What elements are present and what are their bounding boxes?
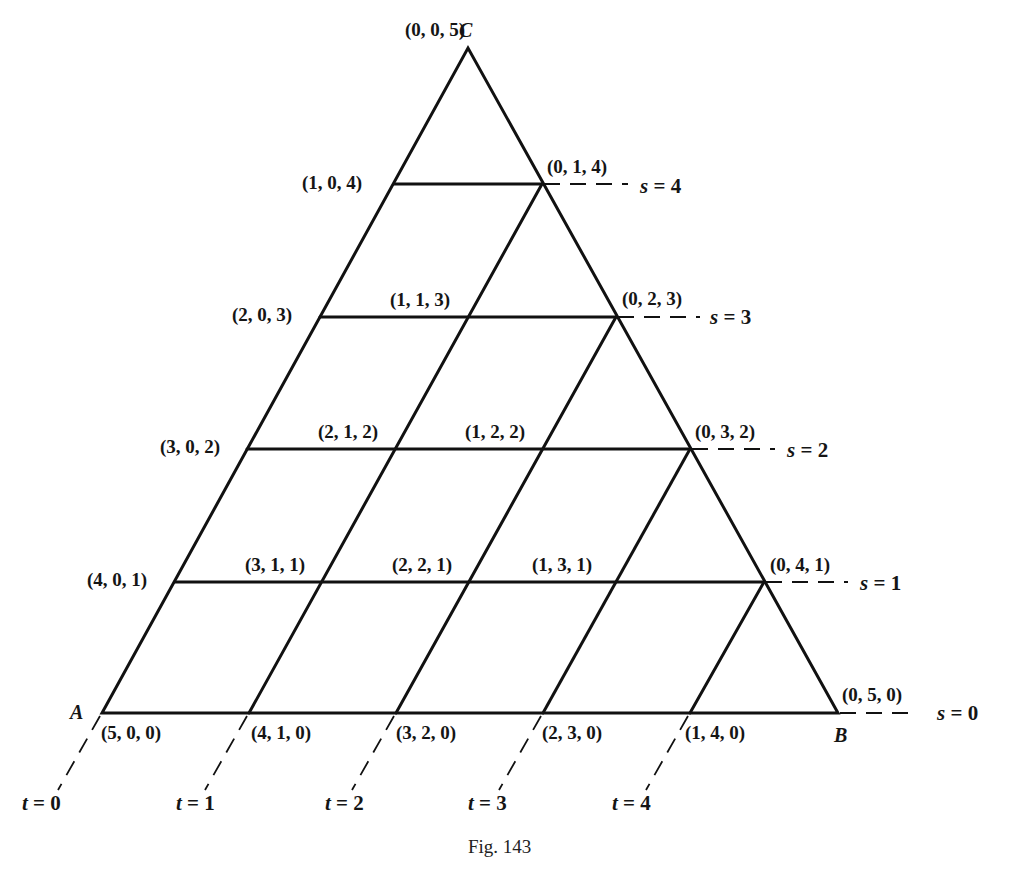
triangle-outline: [102, 48, 838, 713]
s-line-label: s = 1: [860, 573, 901, 594]
s-line-label-value: = 3: [718, 305, 751, 329]
point-label: (0, 3, 2): [695, 422, 755, 441]
t-dash-4: [646, 716, 688, 790]
s-line-label-variable: s: [860, 571, 868, 595]
point-label: (1, 1, 3): [390, 290, 450, 309]
s-line-label-value: = 2: [795, 438, 828, 462]
t-line-2: [396, 317, 616, 713]
t-line-label: t = 4: [612, 793, 651, 814]
s-line-label-value: = 1: [868, 571, 901, 595]
s-line-label: s = 4: [640, 176, 681, 197]
s-line-label-variable: s: [787, 438, 795, 462]
s-line-label-variable: s: [640, 174, 648, 198]
point-label: (5, 0, 0): [101, 723, 161, 742]
point-label: (1, 3, 1): [532, 555, 592, 574]
point-label: (1, 2, 2): [465, 422, 525, 441]
point-label: (1, 0, 4): [302, 173, 362, 192]
t-line-label-value: = 3: [474, 791, 507, 815]
s-line-label: s = 2: [787, 440, 828, 461]
point-label: (2, 0, 3): [232, 305, 292, 324]
point-label: (3, 1, 1): [245, 555, 305, 574]
t-dash-2: [352, 716, 394, 790]
s-line-label: s = 3: [710, 307, 751, 328]
point-label: (0, 0, 5): [405, 20, 465, 39]
s-line-label: s = 0: [937, 703, 978, 724]
t-dash-0: [58, 716, 100, 790]
point-label: (2, 3, 0): [542, 723, 602, 742]
t-line-label-value: = 2: [331, 791, 364, 815]
point-label: (2, 2, 1): [392, 555, 452, 574]
point-label: (3, 0, 2): [160, 437, 220, 456]
t-dash-3: [499, 716, 541, 790]
point-label: (1, 4, 0): [685, 723, 745, 742]
s-line-label-variable: s: [937, 701, 945, 725]
point-label: (0, 1, 4): [547, 157, 607, 176]
figure-caption: Fig. 143: [468, 837, 531, 856]
point-label: (0, 2, 3): [622, 289, 682, 308]
t-line-label-value: = 1: [182, 791, 215, 815]
vertex-label-a: A: [70, 702, 83, 722]
t-line-label: t = 1: [176, 793, 215, 814]
point-label: (0, 5, 0): [842, 685, 902, 704]
point-label: (3, 2, 0): [396, 723, 456, 742]
point-label: (0, 4, 1): [770, 555, 830, 574]
t-line-label-value: = 0: [28, 791, 61, 815]
vertex-label-b: B: [834, 725, 847, 745]
s-line-label-variable: s: [710, 305, 718, 329]
point-label: (4, 1, 0): [251, 723, 311, 742]
point-label: (4, 0, 1): [87, 570, 147, 589]
t-dash-1: [205, 716, 247, 790]
point-label: (2, 1, 2): [318, 422, 378, 441]
t-line-4: [690, 582, 764, 713]
s-line-label-value: = 4: [648, 174, 681, 198]
t-line-label: t = 0: [22, 793, 61, 814]
t-line-label: t = 2: [325, 793, 364, 814]
t-line-label: t = 3: [468, 793, 507, 814]
t-line-label-value: = 4: [618, 791, 651, 815]
s-line-label-value: = 0: [945, 701, 978, 725]
